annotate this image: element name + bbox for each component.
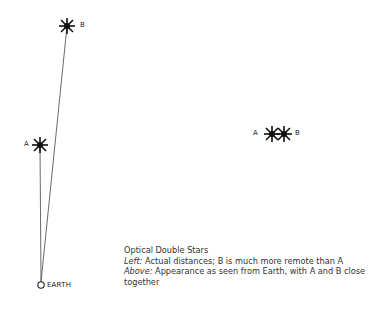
star-a-icon [32, 137, 48, 153]
caption-line-left: Left: Actual distances; B is much more r… [124, 256, 374, 267]
star-a-label: A [24, 140, 29, 148]
caption-left-prefix: Left: [124, 256, 142, 266]
figure-caption: Optical Double Stars Left: Actual distan… [124, 245, 374, 287]
sightline-to-b [41, 26, 67, 282]
apparent-star-a-label: A [253, 129, 258, 137]
sightline-to-a [40, 145, 41, 282]
star-b-icon [59, 18, 75, 34]
caption-line-above: Above: Appearance as seen from Earth, wi… [124, 266, 374, 287]
caption-above-text: Appearance as seen from Earth, with A an… [124, 266, 365, 287]
caption-above-prefix: Above: [124, 266, 152, 276]
earth-icon [38, 282, 44, 288]
caption-title: Optical Double Stars [124, 245, 374, 256]
star-b-apparent-icon [276, 126, 292, 142]
caption-left-text: Actual distances; B is much more remote … [142, 256, 343, 266]
earth-label: EARTH [47, 281, 71, 289]
apparent-star-b-label: B [295, 129, 300, 137]
star-b-label: B [80, 21, 85, 29]
